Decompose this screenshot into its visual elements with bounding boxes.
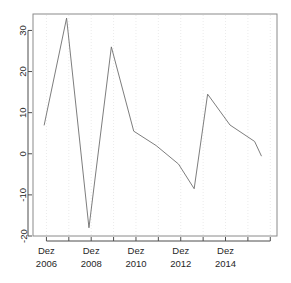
line-chart-plot: 3020100-10-20 Dez2006Dez2008Dez2010Dez20… xyxy=(0,0,291,283)
x-tick-label-month: Dez xyxy=(172,245,189,256)
y-tick-label: 30 xyxy=(18,25,29,36)
chart-figure: 3020100-10-20 Dez2006Dez2008Dez2010Dez20… xyxy=(0,0,291,283)
x-axis-tick-labels: Dez2006Dez2008Dez2010Dez2012Dez2014 xyxy=(36,245,236,269)
y-tick-label: -20 xyxy=(18,229,29,243)
y-tick-label: 10 xyxy=(18,107,29,118)
x-tick-label-year: 2014 xyxy=(215,258,236,269)
y-axis xyxy=(28,30,32,236)
y-tick-label: 20 xyxy=(18,66,29,77)
x-tick-label-month: Dez xyxy=(217,245,234,256)
x-tick-label-year: 2008 xyxy=(81,258,102,269)
x-tick-label-year: 2006 xyxy=(36,258,57,269)
x-tick-label-year: 2010 xyxy=(125,258,146,269)
x-tick-label-month: Dez xyxy=(128,245,145,256)
x-axis xyxy=(46,237,270,241)
y-tick-label: 0 xyxy=(18,151,29,156)
y-axis-tick-labels: 3020100-10-20 xyxy=(18,25,29,243)
y-tick-label: -10 xyxy=(18,188,29,202)
x-tick-label-year: 2012 xyxy=(170,258,191,269)
x-tick-label-month: Dez xyxy=(38,245,55,256)
x-tick-label-month: Dez xyxy=(83,245,100,256)
